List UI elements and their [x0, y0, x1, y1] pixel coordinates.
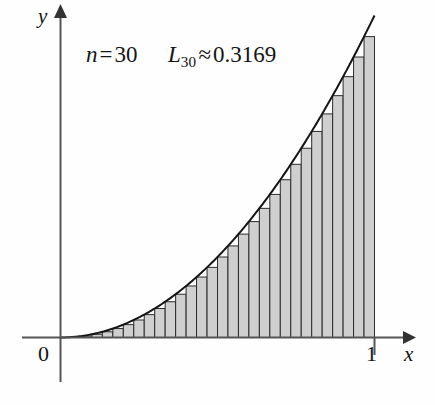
riemann-rectangle — [155, 309, 165, 338]
lower-sum-subscript: 30 — [181, 53, 197, 70]
riemann-rectangle — [270, 194, 280, 337]
riemann-rectangle — [301, 148, 311, 337]
riemann-rectangle — [228, 246, 238, 338]
riemann-rectangle — [123, 325, 133, 338]
lower-sum-value: 0.3169 — [213, 42, 276, 67]
riemann-rectangle — [322, 114, 332, 338]
annotation-n-value: n=30 — [86, 43, 137, 66]
riemann-rectangle — [165, 302, 175, 338]
riemann-rectangle — [280, 180, 290, 338]
x-tick-label-one: 1 — [366, 343, 377, 365]
riemann-rectangle — [144, 315, 154, 338]
riemann-rectangle — [197, 277, 207, 337]
x-axis-label: x — [404, 344, 413, 365]
n-variable-symbol: n — [86, 42, 98, 67]
riemann-rectangle — [176, 294, 186, 337]
rectangle-bars-group — [71, 37, 375, 338]
riemann-rectangle — [249, 222, 259, 338]
lower-sum-symbol: L — [168, 42, 181, 67]
riemann-sum-figure: n=30 L30≈0.3169 y x 0 1 — [0, 0, 435, 405]
riemann-rectangle — [113, 329, 123, 338]
riemann-rectangle — [364, 37, 374, 338]
riemann-rectangle — [333, 96, 343, 338]
riemann-rectangle — [343, 77, 353, 338]
riemann-rectangle — [207, 267, 217, 337]
origin-label: 0 — [38, 343, 49, 365]
approximately-equal-sign: ≈ — [196, 42, 213, 67]
n-equals-sign: = — [98, 42, 115, 67]
riemann-rectangle — [259, 208, 269, 337]
riemann-rectangle — [291, 164, 301, 337]
y-axis-label: y — [38, 6, 47, 27]
riemann-rectangle — [186, 286, 196, 338]
y-axis-arrowhead — [54, 4, 67, 18]
annotation-lower-sum: L30≈0.3169 — [168, 43, 276, 69]
n-number: 30 — [114, 42, 137, 67]
riemann-rectangle — [354, 57, 364, 337]
riemann-rectangle — [218, 257, 228, 338]
riemann-rectangle — [238, 234, 248, 337]
riemann-rectangle — [312, 131, 322, 337]
riemann-rectangle — [134, 320, 144, 338]
